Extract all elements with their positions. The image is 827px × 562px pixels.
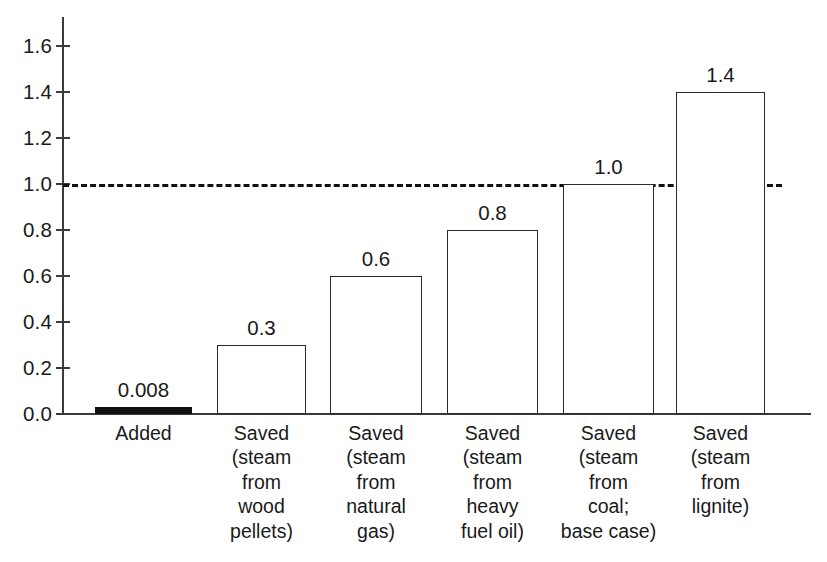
category-label-line: from [654,470,787,494]
y-tick-label: 0.0 [0,404,52,425]
category-label-line: Saved [425,421,560,445]
category-label-line: fuel oil) [425,519,560,543]
y-tick-0.4 [56,321,70,323]
bar [95,407,192,414]
bar [676,92,765,414]
bar-value-label: 0.6 [330,248,422,270]
category-label-line: Saved [654,421,787,445]
category-label-line: natural [308,494,444,518]
bar [330,276,422,414]
category-label-line: Added [73,421,214,445]
y-tick-1.4 [56,91,70,93]
y-tick-label: 0.6 [0,266,52,287]
y-axis-line [62,17,64,415]
y-tick-label: 1.0 [0,174,52,195]
y-tick-label: 0.4 [0,312,52,333]
y-tick-0.6 [56,275,70,277]
category-label-line: (steam [654,445,787,469]
category-label-line: from [425,470,560,494]
y-tick-1.6 [56,45,70,47]
y-tick-label: 0.8 [0,220,52,241]
y-tick-label: 0.2 [0,358,52,379]
category-label-line: (steam [425,445,560,469]
y-tick-0.2 [56,367,70,369]
bar-value-label: 1.0 [563,156,654,178]
category-label-line: heavy [425,494,560,518]
category-label: Saved(steamfromlignite) [654,421,787,519]
y-tick-0.0 [56,413,70,415]
category-label: Added [73,421,214,445]
reference-line-1.0 [63,184,782,187]
bar-value-label: 0.3 [217,317,306,339]
y-tick-label: 1.4 [0,82,52,103]
category-label-line: gas) [308,519,444,543]
y-tick-0.8 [56,229,70,231]
bar-chart: 0.00.20.40.60.81.01.21.41.6 0.0080.30.60… [0,0,827,562]
category-label-line: Saved [308,421,444,445]
category-label-line: (steam [308,445,444,469]
category-label-line: lignite) [654,494,787,518]
bar-value-label: 0.008 [95,379,192,401]
y-tick-1.2 [56,137,70,139]
category-label-line: from [308,470,444,494]
y-tick-label: 1.6 [0,36,52,57]
bar [217,345,306,414]
bar-value-label: 0.8 [447,202,538,224]
bar [563,184,654,414]
bar [447,230,538,414]
bar-value-label: 1.4 [676,64,765,86]
y-tick-label: 1.2 [0,128,52,149]
category-label: Saved(steamfromheavyfuel oil) [425,421,560,543]
category-label: Saved(steamfromnaturalgas) [308,421,444,543]
category-label-line: base case) [541,519,676,543]
